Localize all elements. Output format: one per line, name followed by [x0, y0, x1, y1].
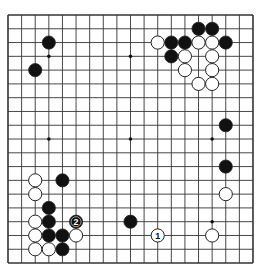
star-point — [129, 55, 133, 59]
black-stone[interactable] — [178, 36, 191, 49]
black-stone[interactable] — [206, 22, 219, 35]
white-stone[interactable] — [192, 77, 205, 90]
white-stone[interactable] — [29, 229, 42, 242]
black-stone[interactable] — [219, 160, 232, 173]
white-stone[interactable] — [206, 77, 219, 90]
white-stone[interactable] — [29, 188, 42, 201]
black-stone[interactable] — [42, 36, 55, 49]
black-stone[interactable] — [56, 174, 69, 187]
numbered-move-2[interactable]: 2 — [69, 215, 82, 228]
white-stone[interactable] — [29, 215, 42, 228]
white-stone[interactable] — [29, 243, 42, 256]
star-point — [210, 137, 214, 141]
star-point — [47, 55, 51, 59]
star-point — [47, 137, 51, 141]
white-stone[interactable] — [192, 36, 205, 49]
move-number-label: 1 — [155, 231, 160, 241]
black-stone[interactable] — [29, 64, 42, 77]
black-stone[interactable] — [219, 119, 232, 132]
go-board[interactable]: 12 — [0, 0, 257, 273]
black-stone[interactable] — [42, 215, 55, 228]
black-stone[interactable] — [124, 215, 137, 228]
star-point — [210, 220, 214, 224]
white-stone[interactable] — [151, 36, 164, 49]
star-point — [129, 137, 133, 141]
white-stone[interactable] — [178, 64, 191, 77]
black-stone[interactable] — [165, 50, 178, 63]
white-stone[interactable] — [206, 64, 219, 77]
black-stone[interactable] — [56, 243, 69, 256]
white-stone[interactable] — [178, 50, 191, 63]
white-stone[interactable] — [219, 188, 232, 201]
numbered-move-1[interactable]: 1 — [151, 229, 164, 242]
black-stone[interactable] — [165, 36, 178, 49]
black-stone[interactable] — [42, 229, 55, 242]
black-stone[interactable] — [42, 201, 55, 214]
black-stone[interactable] — [192, 22, 205, 35]
white-stone[interactable] — [29, 174, 42, 187]
white-stone[interactable] — [206, 50, 219, 63]
white-stone[interactable] — [206, 36, 219, 49]
white-stone[interactable] — [206, 229, 219, 242]
black-stone[interactable] — [219, 36, 232, 49]
move-number-label: 2 — [74, 217, 79, 227]
white-stone[interactable] — [42, 243, 55, 256]
white-stone[interactable] — [69, 229, 82, 242]
black-stone[interactable] — [56, 229, 69, 242]
